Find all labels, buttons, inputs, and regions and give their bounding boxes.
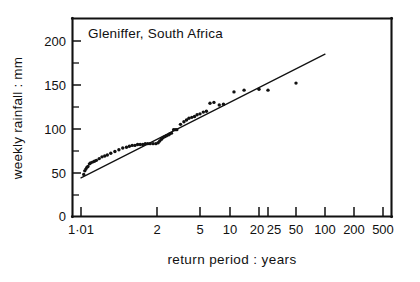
y-axis-ticks <box>73 41 81 195</box>
data-point <box>82 173 85 176</box>
x-tick-label-10: 10 <box>223 222 237 237</box>
data-point <box>195 113 198 116</box>
data-point <box>232 90 235 93</box>
y-axis-tick-labels: 200 150 100 50 0 <box>44 34 66 224</box>
y-tick-label-50: 50 <box>52 166 66 181</box>
data-point <box>125 145 128 148</box>
x-tick-label-2: 2 <box>153 222 160 237</box>
x-tick-label-200: 200 <box>343 222 365 237</box>
plot-frame <box>72 18 392 217</box>
y-tick-label-0: 0 <box>59 209 66 224</box>
data-point <box>242 88 245 91</box>
data-point <box>148 142 151 145</box>
data-point <box>170 131 173 134</box>
data-point <box>109 152 112 155</box>
chart-figure: 200 150 100 50 0 1·01 2 5 10 20 25 <box>0 0 420 282</box>
data-point <box>95 159 98 162</box>
x-tick-label-50: 50 <box>289 222 303 237</box>
chart-title: Gleniffer, South Africa <box>88 26 223 41</box>
x-tick-label-20: 20 <box>250 222 264 237</box>
data-point <box>113 150 116 153</box>
x-axis-title: return period : years <box>167 252 296 267</box>
y-tick-label-200: 200 <box>44 34 66 49</box>
data-point <box>175 128 178 131</box>
x-axis-tick-labels: 1·01 2 5 10 20 25 50 100 200 500 <box>68 222 394 237</box>
data-point <box>106 153 109 156</box>
rainfall-return-period-chart: 200 150 100 50 0 1·01 2 5 10 20 25 <box>0 0 420 282</box>
x-tick-label-5: 5 <box>196 222 203 237</box>
x-tick-label-1-01: 1·01 <box>68 222 94 237</box>
y-tick-label-100: 100 <box>44 122 66 137</box>
fitted-trend-line <box>81 54 325 178</box>
data-point <box>294 81 297 84</box>
x-tick-label-25: 25 <box>267 222 281 237</box>
data-point <box>222 102 225 105</box>
y-tick-label-150: 150 <box>44 78 66 93</box>
x-axis-ticks <box>81 207 383 216</box>
data-point <box>212 101 215 104</box>
data-point <box>202 110 205 113</box>
x-tick-label-500: 500 <box>372 222 394 237</box>
data-point <box>179 123 182 126</box>
scatter-points <box>82 81 298 176</box>
data-point <box>266 88 269 91</box>
data-point <box>218 103 221 106</box>
x-tick-label-100: 100 <box>314 222 336 237</box>
data-point <box>257 88 260 91</box>
data-point <box>198 112 201 115</box>
data-point <box>187 117 190 120</box>
data-point <box>205 110 208 113</box>
data-point <box>208 102 211 105</box>
y-axis-title: weekly rainfall : mm <box>10 57 25 181</box>
data-point <box>117 148 120 151</box>
data-point <box>121 146 124 149</box>
